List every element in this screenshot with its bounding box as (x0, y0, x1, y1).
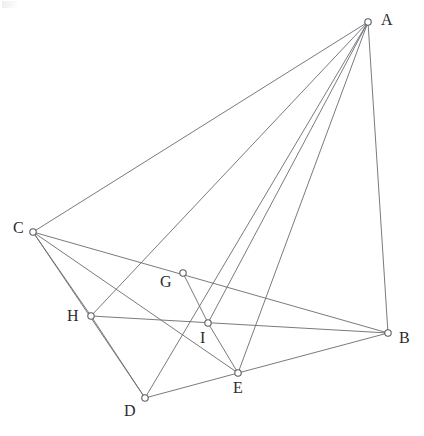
vertex-label-a: A (381, 12, 393, 28)
edge-a-i (208, 22, 368, 323)
edge-a-h (91, 22, 368, 316)
vertex-point-c[interactable] (30, 229, 36, 235)
edge-d-e (145, 373, 238, 398)
vertex-label-e: E (233, 380, 243, 396)
edge-a-b (368, 22, 388, 333)
edge-a-e (238, 22, 368, 373)
edge-i-e (208, 323, 238, 373)
vertex-point-h[interactable] (88, 313, 94, 319)
vertex-point-i[interactable] (205, 320, 211, 326)
vertex-label-b: B (399, 330, 410, 346)
edge-h-b (91, 316, 388, 333)
vertex-label-h: H (67, 308, 79, 324)
vertex-point-b[interactable] (385, 330, 391, 336)
vertex-label-d: D (124, 403, 136, 419)
edge-h-d (91, 316, 145, 398)
vertex-label-i: I (200, 330, 205, 346)
edge-a-c (33, 22, 368, 232)
edge-c-e (33, 232, 238, 373)
vertex-point-d[interactable] (142, 395, 148, 401)
geometry-canvas (0, 0, 424, 436)
vertex-point-e[interactable] (235, 370, 241, 376)
edge-e-b (238, 333, 388, 373)
geometry-figure: ABCDEGHI (0, 0, 424, 436)
edge-layer (33, 22, 388, 398)
vertex-label-c: C (13, 220, 24, 236)
edge-a-d (145, 22, 368, 398)
vertex-point-g[interactable] (180, 270, 186, 276)
vertex-layer (30, 19, 391, 401)
vertex-label-g: G (160, 274, 172, 290)
vertex-point-a[interactable] (365, 19, 371, 25)
